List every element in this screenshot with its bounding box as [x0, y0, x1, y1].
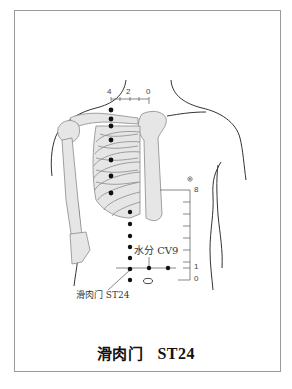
figure-caption: 滑肉门ST24	[0, 342, 292, 363]
side-scale-tick-0: 0	[194, 274, 198, 283]
top-scale-tick-4: 4	[107, 87, 111, 96]
anatomy-illustration	[0, 0, 292, 389]
acupoint-label: 滑肉门 ST24	[76, 288, 129, 301]
top-scale-tick-0: 0	[146, 87, 150, 96]
top-scale-tick-2: 2	[126, 87, 130, 96]
navel-icon	[144, 278, 153, 283]
caption-name: 滑肉门	[97, 345, 144, 363]
caption-code: ST24	[157, 345, 195, 362]
side-scale-tick-1: 1	[194, 262, 198, 271]
side-scale-tick-8: 8	[194, 185, 198, 194]
reference-point-label: 水分 CV9	[134, 242, 178, 257]
